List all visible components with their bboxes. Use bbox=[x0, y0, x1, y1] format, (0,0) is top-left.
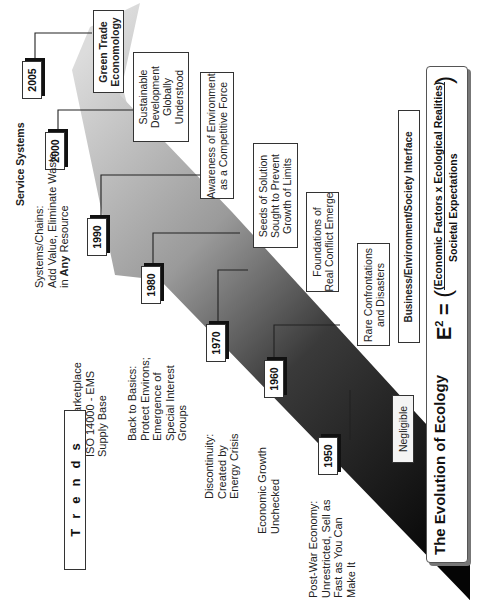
year-box-1980: 1980 bbox=[141, 266, 161, 304]
trend-label-systems-chains: Systems/Chains: Add Value, Eliminate Was… bbox=[33, 153, 71, 288]
event-box-1960: Rare Confrontationsand Disasters bbox=[357, 243, 390, 346]
trend-label-post-war-economy: Post-War Economy:Unrestricted, Sell asFa… bbox=[307, 500, 357, 598]
trends-letter: e bbox=[68, 496, 83, 503]
year-box-1970: 1970 bbox=[206, 324, 226, 362]
trend-label-economic-growth: Economic GrowthUnchecked bbox=[256, 447, 281, 534]
trends-letter: s bbox=[68, 443, 83, 450]
trends-letter: T bbox=[68, 529, 83, 537]
year-box-1960: 1960 bbox=[264, 360, 284, 398]
formula-lhs: E2 = ( bbox=[428, 290, 455, 340]
formula-close-paren: ) bbox=[432, 76, 456, 84]
trends-letter: n bbox=[68, 479, 83, 487]
trend-label-discontinuity: Discontinuity:Created byEnergy Crisis bbox=[203, 434, 241, 499]
diagram-title: The Evolution of Ecology bbox=[430, 375, 450, 555]
formula-numerator: (Economic Factors x Ecological Realities… bbox=[432, 82, 445, 290]
event-box-1950: Negligible bbox=[392, 395, 414, 463]
event-box-1990: Awareness of Environmentas a Competitive… bbox=[200, 72, 234, 199]
trends-box: T r e n d s bbox=[64, 410, 86, 570]
event-box-1970: Foundations ofReal Conflict Emerge bbox=[306, 192, 339, 292]
event-box-2000: SustainableDevelopmentGloballyUnderstood bbox=[133, 52, 189, 142]
event-box-2005: Green TradeEconomology bbox=[93, 10, 124, 93]
trends-letter: d bbox=[68, 461, 83, 469]
service-systems-label: Service Systems bbox=[14, 123, 27, 206]
trends-letter: r bbox=[68, 514, 83, 519]
year-box-2005: 2005 bbox=[22, 61, 42, 99]
year-box-1990: 1990 bbox=[87, 218, 107, 256]
formula-denominator: Societal Expectations bbox=[447, 153, 459, 262]
evolution-of-ecology-diagram: 2005 2000 1990 1980 1970 1960 1950 Green… bbox=[0, 0, 479, 607]
trend-label-back-to-basics: Back to Basics:Protect Environs;Emergenc… bbox=[126, 357, 189, 441]
event-box-1980: Seeds of SolutionSought to PreventGrowth… bbox=[253, 143, 298, 248]
interface-label-box: Business/Environment/Society Interface bbox=[398, 110, 420, 343]
year-box-1950: 1950 bbox=[318, 437, 338, 475]
